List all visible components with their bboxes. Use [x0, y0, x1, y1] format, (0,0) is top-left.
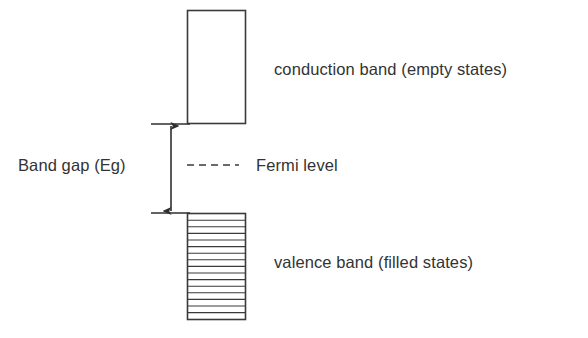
band-gap-label: Band gap (Eg): [18, 157, 126, 174]
conduction-band-label: conduction band (empty states): [274, 61, 507, 78]
valence-band-label: valence band (filled states): [274, 254, 473, 271]
fermi-level-label: Fermi level: [256, 157, 338, 174]
band-diagram-page: conduction band (empty states) valence b…: [0, 0, 588, 338]
conduction-band-rect: [188, 11, 246, 124]
